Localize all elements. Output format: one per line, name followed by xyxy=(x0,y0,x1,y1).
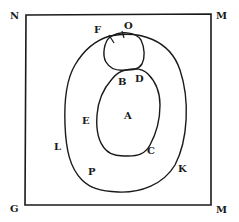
label-l: L xyxy=(54,141,61,152)
label-k: K xyxy=(178,163,187,174)
corner-label-bottom-right: M xyxy=(216,204,227,215)
label-f: F xyxy=(94,24,101,35)
corner-label-top-right: M xyxy=(216,10,227,21)
label-d: D xyxy=(135,73,144,84)
label-p: P xyxy=(88,166,96,177)
label-c: C xyxy=(147,145,155,156)
corner-label-bottom-left: G xyxy=(10,203,19,214)
label-a: A xyxy=(123,110,132,121)
corner-label-top-left: N xyxy=(10,10,19,21)
label-b: B xyxy=(118,76,126,87)
label-e: E xyxy=(82,115,90,126)
venn-diagram: N M G M F O B D E A C L P K xyxy=(0,0,239,222)
small-circle xyxy=(104,33,144,70)
rectangle-frame xyxy=(25,14,211,205)
label-o: O xyxy=(124,20,133,31)
